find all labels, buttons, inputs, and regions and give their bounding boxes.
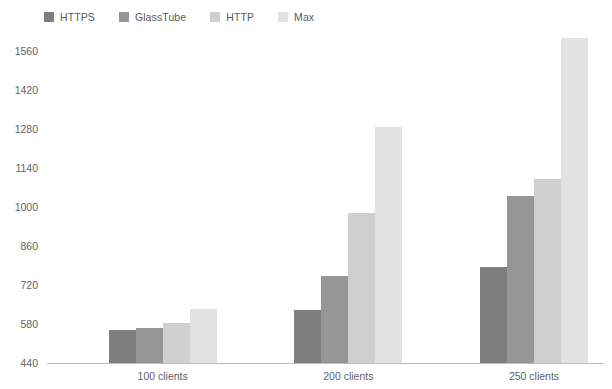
x-axis-line [47,363,604,364]
bar-glasstube-250[interactable] [507,196,534,364]
bar-max-250[interactable] [561,38,588,364]
y-axis-tick-label: 1560 [15,45,38,57]
bar-http-200[interactable] [348,213,375,364]
bar-chart: HTTPSGlassTubeHTTPMax 440580720860100011… [0,0,612,389]
y-axis-tick-label: 1140 [15,162,38,174]
y-axis: 44058072086010001140128014201560 [0,0,44,389]
legend-item-http[interactable]: HTTP [210,11,254,23]
legend-swatch-icon [119,12,129,22]
bar-group-100-clients [47,40,233,364]
plot-area [47,40,604,364]
legend-item-https[interactable]: HTTPS [44,11,95,23]
x-axis-tick-label: 250 clients [509,370,559,382]
chart-legend: HTTPSGlassTubeHTTPMax [0,6,612,28]
y-axis-tick-label: 860 [20,240,38,252]
legend-item-label: HTTP [226,11,254,23]
x-axis-tick-label: 100 clients [138,370,188,382]
x-axis-tick-label: 200 clients [323,370,373,382]
bar-http-100[interactable] [163,323,190,364]
bar-https-200[interactable] [294,310,321,364]
legend-item-label: GlassTube [135,11,186,23]
legend-swatch-icon [44,12,54,22]
bar-http-250[interactable] [534,179,561,364]
y-axis-tick-label: 580 [20,318,38,330]
bar-glasstube-200[interactable] [321,276,348,364]
legend-item-label: Max [294,11,314,23]
legend-item-glasstube[interactable]: GlassTube [119,11,186,23]
legend-item-max[interactable]: Max [278,11,314,23]
bar-max-100[interactable] [190,309,217,364]
bar-https-250[interactable] [480,267,507,364]
legend-swatch-icon [210,12,220,22]
bar-group-250-clients [418,40,604,364]
y-axis-tick-label: 720 [20,279,38,291]
y-axis-tick-label: 1280 [15,123,38,135]
y-axis-tick-label: 1420 [15,84,38,96]
bar-group-200-clients [233,40,419,364]
bar-max-200[interactable] [375,127,402,364]
bar-https-100[interactable] [109,330,136,364]
legend-item-label: HTTPS [60,11,95,23]
legend-swatch-icon [278,12,288,22]
y-axis-tick-label: 1000 [15,201,38,213]
bar-glasstube-100[interactable] [136,328,163,364]
x-axis: 100 clients200 clients250 clients [0,368,612,388]
